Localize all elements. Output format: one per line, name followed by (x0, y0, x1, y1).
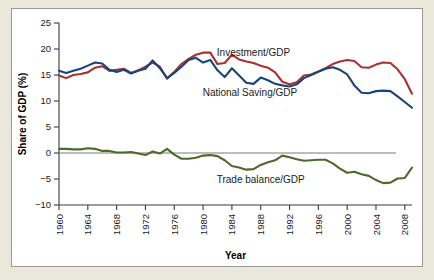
x-tick-label: 1992 (284, 214, 295, 235)
y-tick-label: 0 (46, 147, 51, 158)
y-tick-label: 25 (40, 17, 51, 28)
x-tick-label: 2008 (399, 214, 410, 235)
x-tick-label: 1988 (255, 214, 266, 235)
x-tick-label: 1976 (169, 214, 180, 235)
figure-container: −10−505101520251960196419681972197619801… (0, 0, 434, 280)
x-tick-label: 1980 (198, 214, 209, 235)
x-tick-label: 1984 (226, 214, 237, 235)
x-tick-label: 1964 (82, 214, 93, 235)
x-tick-label: 1960 (54, 214, 65, 235)
x-tick-label: 1996 (313, 214, 324, 235)
y-tick-label: −10 (35, 199, 51, 210)
y-tick-label: −5 (40, 173, 51, 184)
x-tick-label: 1968 (111, 214, 122, 235)
line-chart: −10−505101520251960196419681972197619801… (12, 9, 422, 266)
series-annotation-0: Investment/GDP (217, 47, 291, 58)
y-tick-label: 5 (46, 121, 51, 132)
series-annotation-2: Trade balance/GDP (217, 174, 305, 185)
y-tick-label: 10 (40, 95, 51, 106)
x-axis-title: Year (225, 250, 246, 261)
y-axis-title: Share of GDP (%) (17, 73, 28, 156)
y-tick-label: 15 (40, 69, 51, 80)
y-tick-label: 20 (40, 43, 51, 54)
series-annotation-1: National Saving/GDP (203, 87, 298, 98)
x-tick-label: 1972 (140, 214, 151, 235)
chart-panel: −10−505101520251960196419681972197619801… (11, 8, 423, 267)
x-tick-label: 2000 (342, 214, 353, 235)
x-tick-label: 2004 (371, 214, 382, 235)
